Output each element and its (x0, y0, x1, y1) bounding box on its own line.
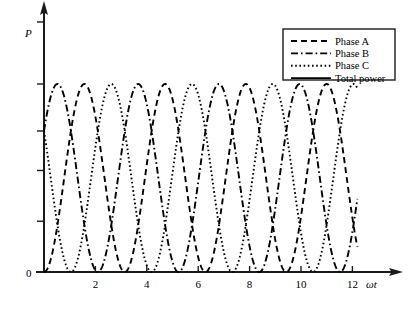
origin-zero-label: 0 (26, 267, 32, 279)
legend: Phase APhase BPhase CTotal power (283, 29, 395, 84)
x-tick-label-12: 12 (347, 278, 358, 290)
x-tick-label-4: 4 (144, 278, 150, 290)
x-tick-label-6: 6 (195, 278, 201, 290)
x-tick-label-2: 2 (93, 278, 99, 290)
series-phase-a (44, 84, 357, 272)
legend-label-3: Total power (335, 73, 386, 84)
series-phase-b (44, 84, 357, 272)
series-phase-c (44, 84, 357, 272)
legend-label-2: Phase C (335, 60, 369, 71)
x-axis-tick-labels: 24681012 (93, 278, 358, 290)
x-tick-label-8: 8 (247, 278, 253, 290)
x-axis-title: ωt (366, 278, 378, 290)
y-axis-ticks (37, 22, 44, 221)
legend-label-1: Phase B (335, 48, 369, 59)
x-tick-label-10: 10 (296, 278, 308, 290)
x-axis (36, 268, 403, 276)
legend-label-0: Phase A (335, 36, 370, 47)
y-axis-title: P (24, 27, 32, 39)
chart-figure: 24681012 P ωt 0 Phase APhase BPhase CTot… (0, 0, 416, 320)
three-phase-power-chart: 24681012 P ωt 0 Phase APhase BPhase CTot… (0, 0, 416, 320)
